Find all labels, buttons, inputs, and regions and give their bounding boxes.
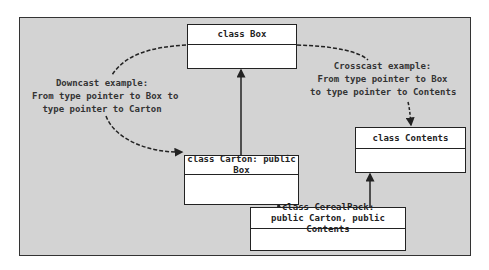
downcast-dashed-arrow-top [112,45,186,75]
crosscast-note: Crosscast example: From type pointer to … [310,60,455,99]
class-carton-header: class Carton: public Box [185,156,298,175]
downcast-note: Downcast example: From type pointer to B… [32,77,172,116]
downcast-note-line3: type pointer to Carton [32,103,172,116]
class-carton: class Carton: public Box [184,155,299,205]
class-contents: class Contents [355,127,466,173]
downcast-note-line2: From type pointer to Box to [32,90,172,103]
class-cerealpack-name-line1: class CerealPack: [251,202,405,213]
class-cerealpack-name-line2: public Carton, public Contents [251,213,405,235]
crosscast-dashed-arrow-bottom [408,102,411,125]
class-cerealpack: class CerealPack: public Carton, public … [250,207,406,251]
class-cerealpack-header: class CerealPack: public Carton, public … [251,208,405,229]
class-box-name: class Box [188,29,296,40]
class-contents-name: class Contents [356,133,465,144]
crosscast-note-line2: From type pointer to Box [310,73,455,86]
class-contents-header: class Contents [356,128,465,149]
downcast-dashed-arrow-bottom [106,116,182,152]
class-box-header: class Box [188,25,296,45]
class-box: class Box [187,24,297,69]
crosscast-note-line3: to type pointer to Contents [310,86,455,99]
class-carton-name: class Carton: public Box [185,154,298,176]
downcast-note-line1: Downcast example: [32,77,172,90]
crosscast-dashed-arrow-top [297,45,368,60]
crosscast-note-line1: Crosscast example: [310,60,455,73]
